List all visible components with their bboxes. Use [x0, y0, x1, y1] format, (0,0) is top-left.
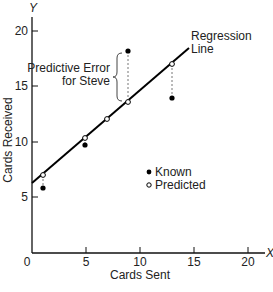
y-tick-label-20: 20: [15, 24, 29, 38]
predicted-point: [170, 62, 175, 67]
x-tick-label-10: 10: [133, 255, 147, 269]
curly-brace: [113, 53, 122, 101]
y-ticks: [32, 31, 38, 197]
y-axis-title: Cards Received: [1, 97, 15, 182]
predicted-point: [105, 117, 110, 122]
regression-label-line2: Line: [191, 42, 214, 56]
predicted-point: [41, 173, 46, 178]
predicted-point: [83, 136, 88, 141]
known-point-steve: [125, 48, 130, 53]
legend-predicted-marker: [147, 183, 151, 187]
error-label-line1: Predictive Error: [27, 61, 110, 75]
axes: [32, 17, 265, 253]
x-ticks: [86, 247, 248, 253]
x-tick-label-20: 20: [241, 255, 255, 269]
y-axis-letter: Y: [29, 1, 38, 15]
known-point: [82, 142, 87, 147]
predicted-point-steve: [126, 100, 131, 105]
legend-known-label: Known: [155, 165, 192, 179]
y-tick-label-15: 15: [15, 79, 29, 93]
y-tick-label-5: 5: [21, 190, 28, 204]
y-tick-label-10: 10: [15, 135, 29, 149]
error-label-line2: for Steve: [62, 74, 110, 88]
x-axis-letter: X: [265, 246, 273, 260]
known-point: [169, 95, 174, 100]
x-axis-title: Cards Sent: [110, 268, 171, 282]
legend-known-marker: [147, 170, 152, 175]
regression-label-line1: Regression: [191, 29, 252, 43]
legend-predicted-label: Predicted: [155, 178, 206, 192]
x-tick-label-15: 15: [187, 255, 201, 269]
x-tick-label-0: 0: [24, 255, 31, 269]
legend: Known Predicted: [147, 165, 206, 192]
x-tick-label-5: 5: [83, 255, 90, 269]
regression-chart: 20 15 10 5 0 5 10 15 20 Y X Cards Sent C…: [0, 0, 273, 292]
known-point: [40, 185, 45, 190]
